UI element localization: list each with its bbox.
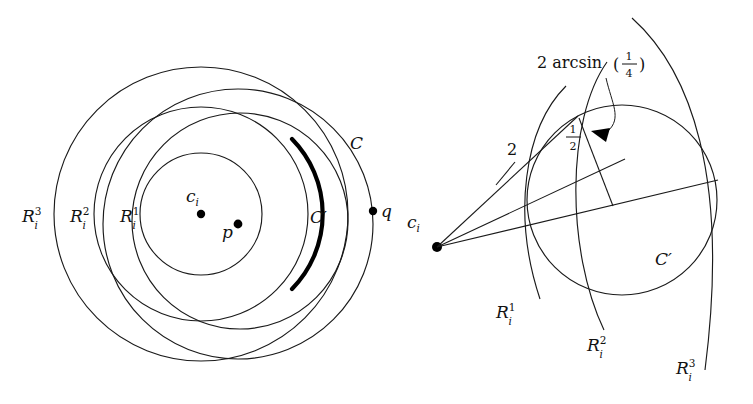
- label-center-ci: ci: [186, 186, 199, 208]
- label-circle-c-prime: C′: [310, 207, 327, 227]
- svg-text:1: 1: [570, 123, 577, 136]
- point-q-dot: [369, 207, 377, 215]
- right-label-center-ci: ci: [407, 212, 420, 234]
- svg-text:4: 4: [626, 67, 633, 80]
- left-panel: R3i R2i R1i ci p q C C′: [21, 67, 392, 361]
- label-ring-3: R3i: [21, 205, 42, 231]
- svg-text:(: (: [613, 55, 619, 74]
- center-point-ci-dot: [197, 210, 205, 218]
- annotation-arrowhead: [591, 128, 610, 142]
- svg-text:2 arcsin: 2 arcsin: [537, 53, 602, 72]
- label-ring-1: R1i: [119, 205, 140, 231]
- geometry-figure: R3i R2i R1i ci p q C C′: [0, 0, 753, 404]
- label-point-q: q: [381, 201, 392, 221]
- right-label-distance-two: 2: [507, 140, 517, 159]
- distance-tick-two: [496, 162, 515, 185]
- right-label-circle-c-prime: C′: [655, 249, 672, 269]
- svg-text:2: 2: [570, 140, 577, 153]
- label-ring-2: R2i: [69, 205, 90, 231]
- right-ring-1-arc: [525, 86, 566, 299]
- ray-lower: [437, 180, 718, 247]
- angle-annotation: 2 arcsin ( 1 4 ): [537, 50, 645, 80]
- right-label-ring-3: R3i: [675, 357, 696, 383]
- annotation-leader-curve: [606, 78, 615, 131]
- right-panel: ci 2 1 2 2 arcsin ( 1 4 ) R1i R2i R3: [407, 18, 718, 383]
- svg-text:): ): [639, 55, 645, 74]
- point-p-dot: [234, 220, 243, 229]
- figure-canvas: R3i R2i R1i ci p q C C′: [0, 0, 753, 404]
- right-label-ring-1: R1i: [495, 301, 516, 327]
- ray-upper: [437, 116, 578, 247]
- right-label-ring-2: R2i: [586, 334, 607, 360]
- label-circle-c: C: [350, 133, 363, 153]
- right-circle-c-prime: [527, 105, 717, 295]
- svg-text:1: 1: [626, 50, 633, 63]
- label-point-p: p: [222, 222, 233, 242]
